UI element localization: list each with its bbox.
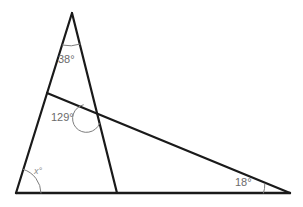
- left-side-segment: [16, 13, 72, 193]
- geometry-canvas: [0, 0, 303, 207]
- apex-angle-label: 38°: [58, 54, 75, 65]
- right-side-segment: [72, 13, 117, 193]
- transversal-segment: [47, 93, 290, 193]
- geometry-figure: 38° 129° x° 18°: [0, 0, 303, 207]
- bottom-right-angle-arc: [264, 184, 265, 193]
- bottom-right-angle-label: 18°: [235, 177, 252, 188]
- bottom-left-angle-label: x°: [34, 167, 42, 176]
- intersection-angle-label: 129°: [51, 112, 74, 123]
- apex-angle-arc: [62, 44, 80, 46]
